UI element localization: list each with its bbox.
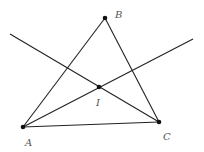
point-i [97, 85, 102, 90]
label-i: I [95, 97, 101, 108]
side-ac [23, 122, 159, 127]
label-b: B [114, 9, 122, 20]
bisector-from-a [23, 39, 193, 127]
point-c [157, 120, 162, 125]
label-a: A [24, 137, 32, 148]
triangle-diagram: A B C I [0, 0, 204, 152]
point-a [21, 125, 26, 130]
diagram-canvas: A B C I [0, 0, 204, 152]
side-ab [23, 18, 105, 127]
point-b [103, 16, 108, 21]
label-c: C [163, 131, 171, 142]
